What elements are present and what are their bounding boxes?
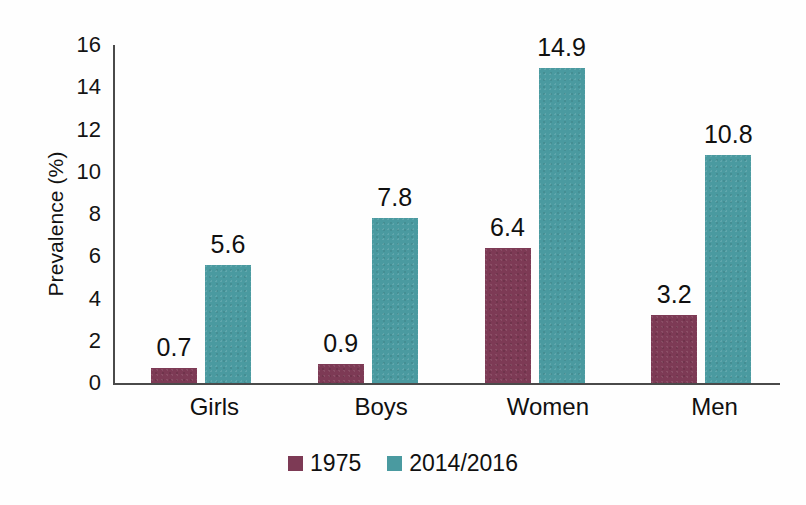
legend-item-2014-2016[interactable]: 2014/2016 [387, 450, 518, 477]
bar-rect [372, 218, 418, 383]
legend-label: 1975 [310, 450, 361, 477]
bar-rect [651, 315, 697, 383]
bar-value-label: 0.9 [323, 329, 358, 358]
bar-chart: Prevalence (%) 0246810121416 0.75.60.97.… [0, 0, 806, 505]
legend-swatch-icon [288, 456, 303, 471]
y-tick-label: 10 [77, 159, 101, 185]
legend-swatch-icon [387, 456, 402, 471]
bar-rect [539, 68, 585, 383]
bar-value-label: 5.6 [211, 230, 246, 259]
y-axis-title: Prevalence (%) [44, 64, 68, 384]
bar-group: 3.210.8 [613, 45, 780, 383]
bar-rect [705, 155, 751, 383]
y-tick-label: 4 [89, 286, 101, 312]
x-axis-label-boys: Boys [291, 393, 471, 421]
bar-value-label: 10.8 [704, 120, 753, 149]
y-tick-label: 14 [77, 74, 101, 100]
bar-value-label: 14.9 [537, 33, 586, 62]
bar-rect [151, 368, 197, 383]
legend-item-1975[interactable]: 1975 [288, 450, 361, 477]
y-tick-label: 0 [89, 370, 101, 396]
bar-value-label: 3.2 [657, 280, 692, 309]
bar-group: 6.414.9 [447, 45, 614, 383]
x-axis-label-girls: Girls [124, 393, 304, 421]
y-tick-label: 8 [89, 201, 101, 227]
bar-value-label: 6.4 [490, 213, 525, 242]
y-tick-label: 2 [89, 328, 101, 354]
bar-rect [205, 265, 251, 383]
x-axis-label-women: Women [458, 393, 638, 421]
bar-value-label: 0.7 [157, 333, 192, 362]
y-tick-label: 12 [77, 117, 101, 143]
bar-rect [485, 248, 531, 383]
bar-group: 0.75.6 [113, 45, 280, 383]
bar-value-label: 7.8 [377, 183, 412, 212]
legend-label: 2014/2016 [409, 450, 518, 477]
bar-rect [318, 364, 364, 383]
x-axis-label-men: Men [625, 393, 805, 421]
y-tick-label: 16 [77, 32, 101, 58]
chart-legend: 19752014/2016 [0, 450, 806, 477]
y-tick-label: 6 [89, 243, 101, 269]
x-axis-line [113, 383, 780, 385]
plot-area: 0246810121416 0.75.60.97.86.414.93.210.8… [113, 45, 780, 383]
bar-group: 0.97.8 [280, 45, 447, 383]
